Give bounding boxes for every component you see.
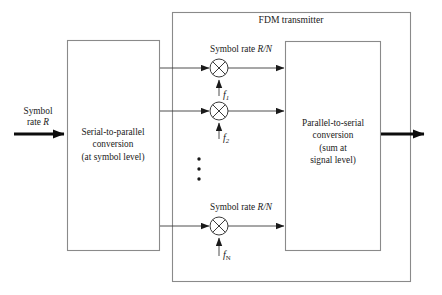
pts-line1: Parallel-to-serial (302, 118, 364, 128)
stp-line1: Serial-to-parallel (82, 127, 145, 137)
pts-line2: conversion (313, 131, 354, 141)
input-label-line2: rate R (27, 117, 49, 128)
carrier-label-f1: f1 (223, 89, 229, 102)
branch-rate-label-bottom: Symbol rate R/N (210, 202, 272, 213)
branch-rate-label-top: Symbol rate R/N (210, 44, 272, 55)
parallel-to-serial-text: Parallel-to-serial conversion (sum at si… (302, 117, 364, 166)
stp-line3: (at symbol level) (82, 151, 145, 161)
serial-to-parallel-text: Serial-to-parallel conversion (at symbol… (82, 126, 145, 163)
fdm-transmitter-label: FDM transmitter (259, 14, 324, 25)
pts-line4: signal level) (310, 155, 356, 165)
stp-line2: conversion (93, 139, 134, 149)
carrier-label-fN: fN (223, 249, 231, 262)
pts-line3: (sum at (319, 143, 347, 153)
input-label-line1: Symbol (24, 106, 53, 117)
vertical-ellipsis-icon (197, 157, 200, 180)
figure-canvas: FDM transmitter Symbol rate R Serial-to-… (0, 0, 442, 295)
fdm-transmitter-box (173, 13, 411, 282)
carrier-label-f2: f2 (223, 132, 229, 145)
